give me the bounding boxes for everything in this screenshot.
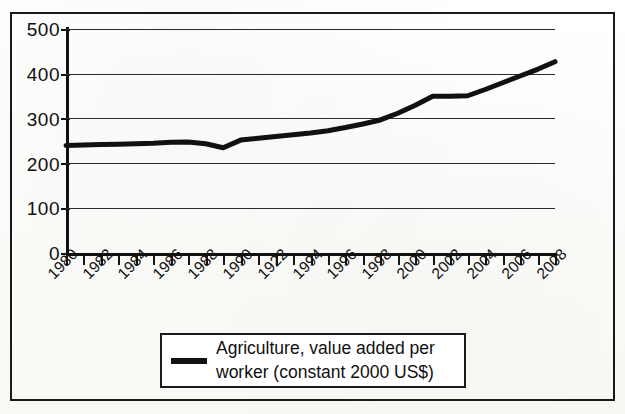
legend-entry-label: Agriculture, value added per worker (con… xyxy=(216,337,441,383)
y-axis-label-100: 100 xyxy=(27,198,60,220)
legend-line-swatch xyxy=(171,358,207,364)
y-axis-labels: 500 400 300 200 100 0 xyxy=(8,0,60,414)
legend-label-line-2: worker (constant 2000 US$) xyxy=(216,361,435,384)
y-axis-label-400: 400 xyxy=(27,64,60,86)
data-series-line xyxy=(66,62,555,148)
y-axis-label-500: 500 xyxy=(27,19,60,41)
legend-swatch-container xyxy=(162,358,216,364)
data-series-layer xyxy=(66,29,555,253)
chart-screenshot: 500 400 300 200 100 0 198019821984198619… xyxy=(0,0,625,414)
y-axis-label-300: 300 xyxy=(27,109,60,131)
y-axis-label-200: 200 xyxy=(27,154,60,176)
chart-legend: Agriculture, value added per worker (con… xyxy=(160,333,466,388)
legend-label-line-1: Agriculture, value added per xyxy=(216,338,435,358)
